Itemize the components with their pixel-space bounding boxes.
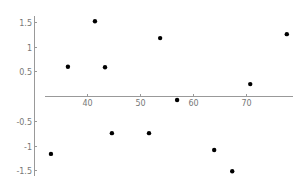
- y-tick-label: 0.5: [19, 68, 32, 77]
- data-point: [103, 65, 107, 69]
- data-point: [212, 148, 216, 152]
- data-point: [110, 131, 114, 135]
- data-point: [285, 32, 289, 36]
- y-tick-label: -1.5: [16, 167, 32, 176]
- axes: [35, 16, 294, 176]
- y-tick-label: -1: [24, 143, 32, 152]
- y-tick-label: 1.5: [19, 19, 32, 28]
- scatter-plot: 40506070 1.510.5-0.5-1-1.5: [0, 0, 307, 184]
- data-point: [175, 98, 179, 102]
- x-tick-label: 50: [135, 99, 145, 108]
- y-tick-label: 1: [27, 44, 32, 53]
- x-tick-label: 40: [82, 99, 92, 108]
- data-point: [230, 169, 234, 173]
- data-point: [158, 36, 162, 40]
- y-axis-ticks: 1.510.5-0.5-1-1.5: [16, 19, 37, 176]
- data-point: [49, 152, 53, 156]
- data-point: [147, 131, 151, 135]
- data-point: [248, 82, 252, 86]
- x-tick-label: 60: [188, 99, 198, 108]
- x-tick-label: 70: [241, 99, 251, 108]
- data-point: [93, 19, 97, 23]
- y-tick-label: -0.5: [16, 118, 32, 127]
- data-point: [66, 65, 70, 69]
